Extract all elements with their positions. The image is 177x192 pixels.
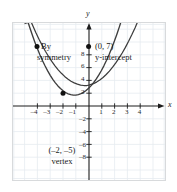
parabola-graph-figure: –4 –3 –2 –1 1 2 3 4 8 6 4 2 –2 –4 –6 –8 … xyxy=(0,0,177,192)
y-tick-label-6: 6 xyxy=(81,63,85,70)
symmetry-annotation-line1: By xyxy=(41,41,71,52)
x-tick-label-3: 3 xyxy=(125,109,129,116)
y-intercept-annotation-line2: y-intercept xyxy=(95,52,132,63)
x-tick-label-2: 2 xyxy=(112,109,116,116)
y-tick-label-8: 8 xyxy=(81,51,85,58)
vertex-annotation: (–2, –5) vertex xyxy=(39,145,85,166)
y-intercept-annotation: (0, 7) y-intercept xyxy=(95,41,132,62)
axes-and-curve xyxy=(13,23,165,180)
x-tick-label--3: –3 xyxy=(43,109,50,116)
y-axis-label: y xyxy=(86,10,90,18)
y-tick-label--4: –4 xyxy=(79,129,86,136)
x-tick-label-4: 4 xyxy=(138,109,142,116)
x-tick-label--1: –1 xyxy=(69,109,76,116)
y-tick-label-2: 2 xyxy=(81,89,85,96)
plot-frame xyxy=(12,22,166,181)
x-axis-label: x xyxy=(168,101,172,109)
vertex-annotation-line2: vertex xyxy=(39,156,85,167)
y-tick-label--2: –2 xyxy=(79,116,86,123)
symmetry-annotation-line2: symmetry xyxy=(37,52,71,63)
symmetry-annotation: By symmetry xyxy=(41,41,71,62)
y-tick-label-4: 4 xyxy=(81,76,85,83)
x-tick-label-1: 1 xyxy=(99,109,103,116)
y-intercept-annotation-line1: (0, 7) xyxy=(95,41,132,52)
vertex-annotation-line1: (–2, –5) xyxy=(39,145,85,156)
y-axis-line xyxy=(86,23,91,180)
x-tick-label--2: –2 xyxy=(56,109,63,116)
x-tick-label--4: –4 xyxy=(31,109,38,116)
